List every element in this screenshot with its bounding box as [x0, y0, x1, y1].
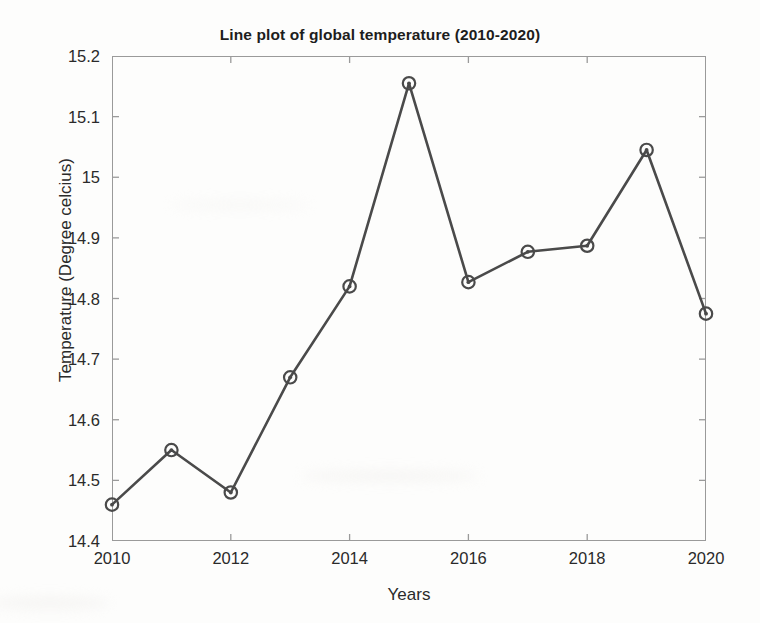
- x-tick-label: 2010: [67, 549, 157, 568]
- y-tick-label: 15.2: [4, 47, 100, 66]
- tick-marks: [112, 56, 706, 541]
- y-tick-label: 15.1: [4, 107, 100, 126]
- x-tick-label: 2020: [661, 549, 751, 568]
- y-tick-label: 14.9: [4, 228, 100, 247]
- data-markers: [106, 77, 712, 511]
- data-point-dot: [407, 81, 411, 85]
- data-point-dot: [645, 148, 649, 152]
- y-axis-label: Temperature (Degree celcius): [56, 28, 76, 513]
- data-point-dot: [585, 244, 589, 248]
- y-tick-label: 14.6: [4, 410, 100, 429]
- data-point-dot: [526, 250, 530, 254]
- data-line-series-1: [112, 83, 706, 504]
- x-tick-label: 2016: [423, 549, 513, 568]
- data-point-dot: [110, 503, 114, 507]
- chart-canvas: [0, 0, 760, 623]
- chart-page: Line plot of global temperature (2010-20…: [0, 0, 760, 623]
- y-tick-label: 14.5: [4, 471, 100, 490]
- data-point-dot: [288, 375, 292, 379]
- x-axis-label: Years: [112, 585, 706, 605]
- x-tick-label: 2018: [542, 549, 632, 568]
- y-tick-label: 14.7: [4, 350, 100, 369]
- y-tick-label: 14.8: [4, 289, 100, 308]
- data-point-dot: [229, 491, 233, 495]
- y-tick-label: 14.4: [4, 532, 100, 551]
- data-point-dot: [170, 448, 174, 452]
- data-point-dot: [348, 284, 352, 288]
- x-tick-label: 2012: [186, 549, 276, 568]
- x-tick-label: 2014: [305, 549, 395, 568]
- data-point-dot: [467, 280, 471, 284]
- y-tick-label: 15: [4, 168, 100, 187]
- data-point-dot: [704, 312, 708, 316]
